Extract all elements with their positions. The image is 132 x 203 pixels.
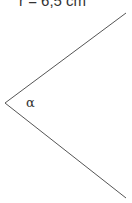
angle-diagram: r = 6,5 cm α — [0, 0, 132, 203]
angle-label: α — [26, 95, 35, 110]
upper-ray — [5, 13, 126, 103]
radius-label: r = 6,5 cm — [19, 0, 86, 9]
lower-ray — [5, 103, 126, 198]
